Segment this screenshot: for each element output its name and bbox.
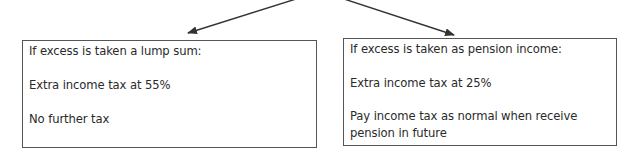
lump-sum-tax-rate: Extra income tax at 55% xyxy=(29,77,170,94)
pension-income-tax-rate: Extra income tax at 25% xyxy=(350,75,491,92)
arrow-to-pension-income xyxy=(344,0,454,35)
lump-sum-heading: If excess is taken a lump sum: xyxy=(29,43,201,60)
arrow-to-lump-sum xyxy=(188,0,296,33)
pension-income-box: If excess is taken as pension income: Ex… xyxy=(343,38,617,146)
lump-sum-further-tax: No further tax xyxy=(29,111,109,128)
pension-income-future-tax-line1: Pay income tax as normal when receive xyxy=(350,108,577,125)
lump-sum-box: If excess is taken a lump sum: Extra inc… xyxy=(22,40,317,148)
pension-income-heading: If excess is taken as pension income: xyxy=(350,41,562,58)
pension-income-future-tax-line2: pension in future xyxy=(350,125,447,142)
